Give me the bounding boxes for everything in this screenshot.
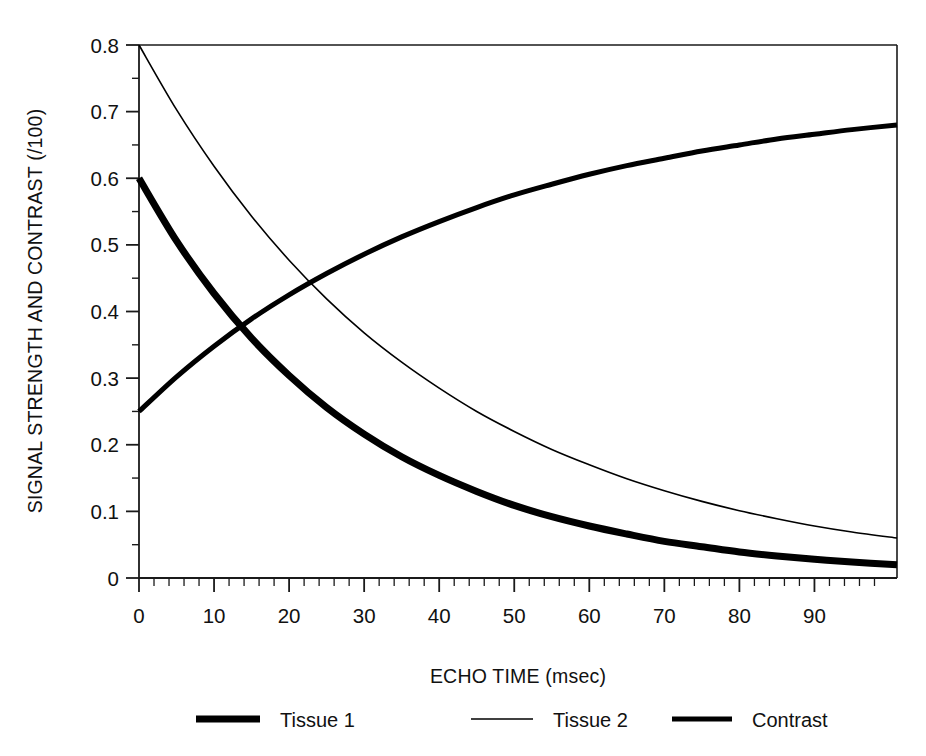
y-tick-label: 0.7 (91, 100, 120, 123)
y-tick-label: 0 (108, 567, 119, 590)
plot-frame (139, 45, 897, 578)
chart-figure: 00.10.20.30.40.50.60.70.8 01020304050607… (0, 0, 926, 756)
chart-legend: Tissue 1Tissue 2Contrast (196, 709, 828, 731)
x-tick-label: 20 (278, 604, 301, 627)
x-tick-label: 80 (728, 604, 751, 627)
x-tick-label: 10 (203, 604, 226, 627)
y-axis-major-ticks (126, 45, 139, 578)
y-tick-label: 0.3 (91, 367, 120, 390)
x-tick-label: 0 (133, 604, 144, 627)
x-tick-label: 70 (653, 604, 676, 627)
x-axis-major-ticks (139, 578, 814, 592)
y-tick-label: 0.6 (91, 167, 120, 190)
x-tick-label: 60 (578, 604, 601, 627)
x-tick-label: 90 (803, 604, 826, 627)
series-line-tissue-2 (139, 45, 897, 538)
legend-label-contrast: Contrast (752, 709, 828, 731)
y-tick-label: 0.4 (91, 300, 120, 323)
x-tick-label: 40 (428, 604, 451, 627)
data-series-group (139, 45, 897, 565)
x-axis-title: ECHO TIME (msec) (430, 665, 606, 687)
legend-label-tissue-1: Tissue 1 (280, 709, 355, 731)
x-tick-label: 50 (503, 604, 526, 627)
y-tick-label: 0.8 (91, 34, 120, 57)
legend-label-tissue-2: Tissue 2 (553, 709, 628, 731)
y-tick-label: 0.5 (91, 233, 120, 256)
signal-contrast-vs-echo-time-chart: 00.10.20.30.40.50.60.70.8 01020304050607… (0, 0, 926, 756)
y-tick-label: 0.2 (91, 433, 120, 456)
x-tick-label: 30 (353, 604, 376, 627)
axes (139, 45, 897, 578)
series-line-contrast (139, 125, 897, 411)
y-axis-tick-labels: 00.10.20.30.40.50.60.70.8 (91, 34, 120, 590)
series-line-tissue-1 (139, 178, 897, 564)
y-tick-label: 0.1 (91, 500, 120, 523)
x-axis-tick-labels: 0102030405060708090 (133, 604, 826, 627)
y-axis-title: SIGNAL STRENGTH AND CONTRAST (/100) (24, 109, 46, 514)
